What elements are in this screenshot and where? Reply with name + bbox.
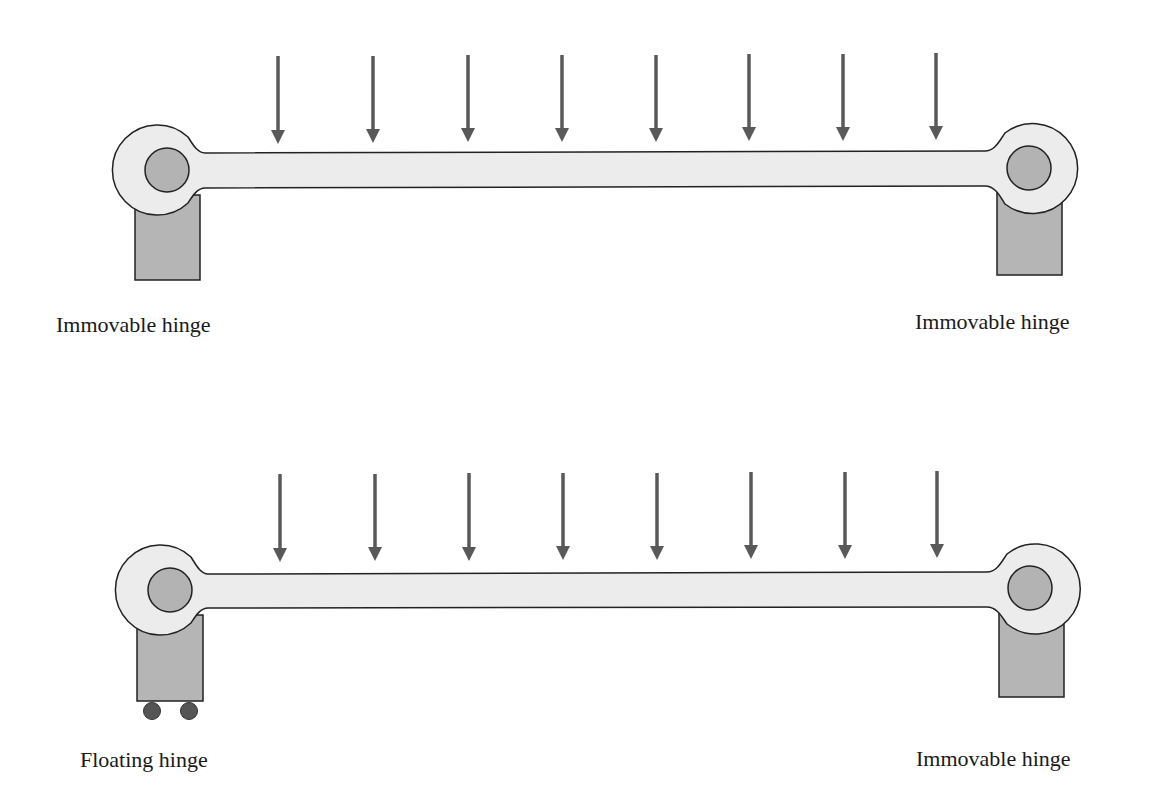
bottom-distributed-load-arrows <box>273 471 944 562</box>
top-beam-body <box>112 123 1077 215</box>
load-arrow-icon <box>929 53 943 140</box>
top-beam-assembly <box>112 53 1077 280</box>
top-left-support-label: Immovable hinge <box>56 312 211 338</box>
top-distributed-load-arrows <box>271 53 943 144</box>
load-arrow-icon <box>368 474 382 561</box>
bottom-right-support-label: Immovable hinge <box>916 746 1071 772</box>
load-arrow-icon <box>836 54 850 141</box>
bottom-beam-body <box>115 544 1080 635</box>
roller-wheel-icon <box>144 703 161 720</box>
load-arrow-icon <box>273 474 287 562</box>
load-arrow-icon <box>271 56 285 144</box>
right-hinge-pin <box>1007 146 1051 190</box>
load-arrow-icon <box>462 473 476 561</box>
left-hinge-pin <box>148 568 192 612</box>
top-right-support-label: Immovable hinge <box>915 309 1070 335</box>
load-arrow-icon <box>838 472 852 559</box>
load-arrow-icon <box>650 473 664 560</box>
left-hinge-pin <box>145 148 189 192</box>
right-hinge-pin <box>1008 566 1052 610</box>
roller-wheel-icon <box>181 703 198 720</box>
load-arrow-icon <box>555 55 569 142</box>
load-arrow-icon <box>461 55 475 142</box>
bottom-left-support-label: Floating hinge <box>80 747 208 773</box>
load-arrow-icon <box>556 473 570 560</box>
beam-support-diagram <box>0 0 1165 799</box>
load-arrow-icon <box>930 471 944 558</box>
load-arrow-icon <box>744 472 758 559</box>
load-arrow-icon <box>742 54 756 141</box>
load-arrow-icon <box>649 55 663 142</box>
bottom-beam-assembly <box>115 471 1080 720</box>
load-arrow-icon <box>366 56 380 143</box>
